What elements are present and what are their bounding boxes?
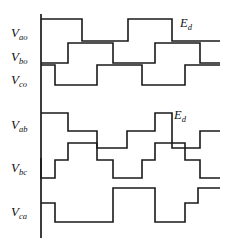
- label-v-ca: Vca: [11, 204, 27, 221]
- waveform-figure: Vao Vbo Vco Vab Vbc Vca Ed Ed: [0, 0, 229, 248]
- waveform-v-ca: [41, 188, 220, 222]
- waveform-svg: Vao Vbo Vco Vab Vbc Vca Ed Ed: [0, 0, 229, 248]
- waveform-v-bo: [41, 43, 220, 63]
- waveform-v-co: [41, 65, 220, 85]
- label-v-bo: Vbo: [11, 49, 27, 66]
- label-ed-pole: Ed: [179, 16, 193, 32]
- label-v-ab: Vab: [11, 117, 27, 134]
- label-ed-line: Ed: [173, 108, 187, 124]
- label-v-ao: Vao: [11, 25, 27, 42]
- label-v-co: Vco: [11, 72, 27, 89]
- waveform-v-ao: [41, 19, 220, 41]
- label-v-bc: Vbc: [11, 160, 27, 177]
